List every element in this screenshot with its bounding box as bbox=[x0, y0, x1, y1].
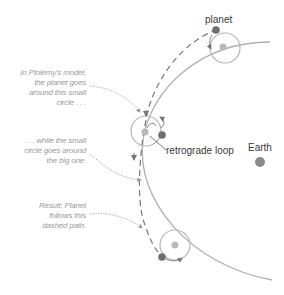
annotation-result: Result: Planet follows this dashed path. bbox=[39, 201, 86, 231]
planet-top bbox=[212, 26, 220, 34]
annotation-epicycle: In Ptolemy's model, the planet goes arou… bbox=[20, 68, 86, 108]
planet-middle bbox=[158, 131, 166, 139]
annotation-deferent: . . . while the small circle goes around… bbox=[24, 136, 86, 166]
earth-label: Earth bbox=[248, 142, 272, 153]
leader-note2 bbox=[90, 154, 141, 180]
planet-bottom bbox=[158, 253, 166, 261]
earth bbox=[255, 157, 265, 167]
retrograde-loop-label: retrograde loop bbox=[166, 145, 234, 156]
epicycle-center-middle bbox=[142, 129, 149, 136]
epicycle-center-top bbox=[220, 44, 227, 51]
dashed-planet-path bbox=[139, 30, 217, 256]
planet-label: planet bbox=[205, 14, 232, 25]
leader-note3 bbox=[90, 214, 142, 228]
epicycle-center-bottom bbox=[172, 242, 179, 249]
leader-note1 bbox=[90, 86, 140, 112]
